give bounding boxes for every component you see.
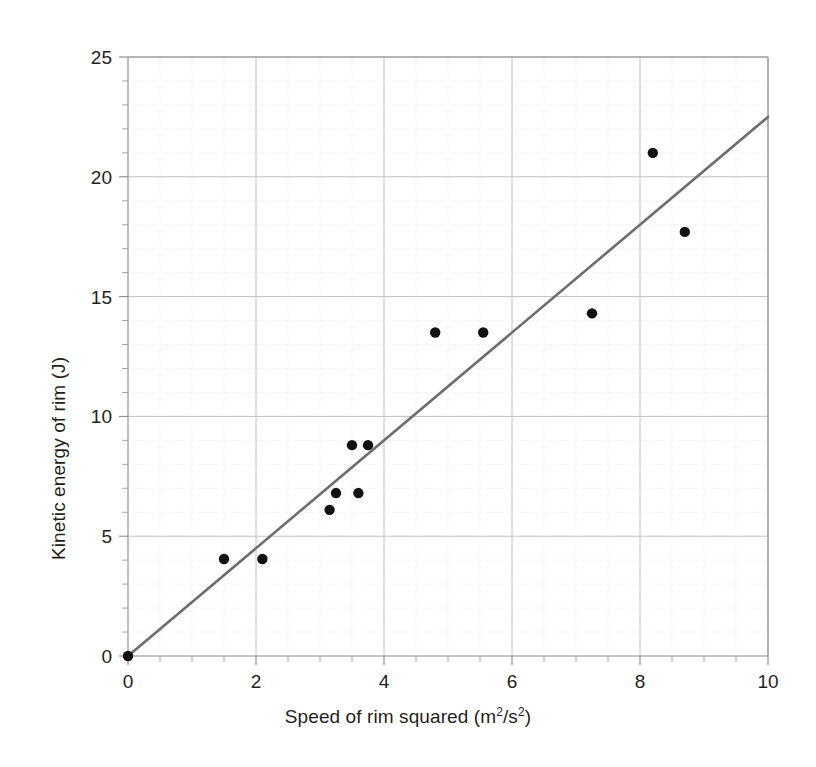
axis-lines	[128, 57, 768, 656]
minor-gridlines	[128, 57, 768, 656]
y-tick-label: 5	[101, 526, 112, 547]
x-tick-label: 10	[757, 671, 778, 692]
x-tick-label: 8	[635, 671, 646, 692]
x-tick-label: 2	[251, 671, 262, 692]
data-point	[347, 440, 357, 450]
x-axis-title-mid: /s	[503, 706, 518, 727]
y-tick-label: 25	[91, 47, 112, 68]
axis-ticks	[119, 57, 768, 665]
x-tick-label: 4	[379, 671, 390, 692]
y-tick-label: 10	[91, 406, 112, 427]
data-point	[430, 327, 440, 337]
x-axis-title-sup-s: 2	[518, 705, 525, 719]
data-point	[123, 651, 133, 661]
x-axis-title-tail: )	[525, 706, 531, 727]
data-point	[680, 227, 690, 237]
y-tick-label: 20	[91, 167, 112, 188]
x-tick-label: 0	[123, 671, 134, 692]
x-tick-label: 6	[507, 671, 518, 692]
chart-canvas: 05101520250246810	[0, 0, 816, 767]
data-point	[648, 148, 658, 158]
tick-labels: 05101520250246810	[91, 47, 779, 692]
trend-line	[128, 117, 768, 656]
data-points	[123, 148, 690, 662]
major-gridlines	[128, 57, 768, 656]
y-tick-label: 0	[101, 646, 112, 667]
scatter-plot-figure: 05101520250246810 Speed of rim squared (…	[0, 0, 816, 767]
x-axis-title: Speed of rim squared (m2/s2)	[0, 706, 816, 728]
data-point	[324, 505, 334, 515]
data-point	[587, 308, 597, 318]
data-point	[219, 554, 229, 564]
y-tick-label: 15	[91, 287, 112, 308]
data-point	[478, 327, 488, 337]
x-axis-title-sup-m: 2	[496, 705, 503, 719]
data-point	[353, 488, 363, 498]
data-point	[331, 488, 341, 498]
y-axis-title: Kinetic energy of rim (J)	[48, 357, 70, 560]
line-of-best-fit	[128, 117, 768, 656]
data-point	[363, 440, 373, 450]
data-point	[257, 554, 267, 564]
x-axis-title-text: Speed of rim squared (m	[285, 706, 496, 727]
